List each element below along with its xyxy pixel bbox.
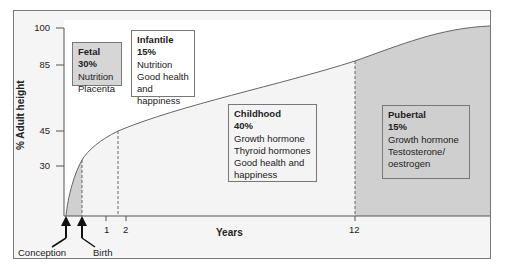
pubertal-percent: 15% [388,121,464,133]
infantile-factor: Nutrition [137,59,189,71]
pubertal-phase-box: Pubertal 15% Growth hormone Testosterone… [382,105,470,179]
y-tick-30: 30 [20,160,50,171]
conception-label: Conception [18,247,66,258]
y-tick-45: 45 [20,125,50,136]
pubertal-factor: Growth hormone [388,134,464,146]
fetal-title: Fetal 30% [78,46,116,71]
infantile-title: Infantile [137,34,189,46]
fetal-factor: Placenta [78,83,116,95]
childhood-factor: Growth hormone [234,133,311,145]
x-tick-12: 12 [349,224,360,235]
x-tick-1: 1 [104,224,109,235]
y-tick-85: 85 [20,59,50,70]
childhood-factor: happiness [234,169,311,181]
fetal-phase-box: Fetal 30% Nutrition Placenta [72,42,122,86]
fetal-factor: Nutrition [78,71,116,83]
infantile-phase-box: Infantile 15% Nutrition Good health and … [131,30,195,97]
y-axis-label: % Adult height [15,80,26,150]
x-axis-label: Years [216,227,243,238]
pubertal-title: Pubertal [388,109,464,121]
birth-label: Birth [93,247,113,258]
childhood-factor: Thyroid hormones [234,145,311,157]
infantile-factor: Good health [137,71,189,83]
pubertal-factor: Testosterone/ [388,146,464,158]
x-tick-2: 2 [123,224,128,235]
childhood-factor: Good health and [234,157,311,169]
y-tick-100: 100 [20,22,50,33]
infantile-factor: and happiness [137,83,189,108]
pubertal-factor: oestrogen [388,158,464,170]
infantile-percent: 15% [137,46,189,58]
childhood-title: Childhood [234,108,311,120]
childhood-phase-box: Childhood 40% Growth hormone Thyroid hor… [228,104,317,182]
childhood-percent: 40% [234,120,311,132]
